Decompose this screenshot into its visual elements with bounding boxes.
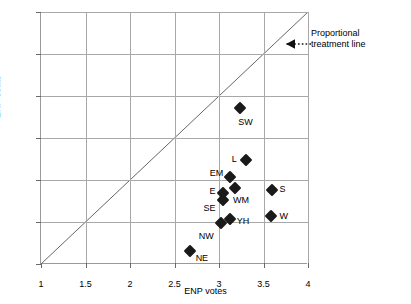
x-axis-tick: [264, 263, 265, 268]
data-point-wm[interactable]: [229, 181, 242, 194]
annotation-proportional-line: Proportional treatment line: [311, 28, 410, 50]
data-point-s[interactable]: [265, 184, 278, 197]
scatter-chart: 1.01.52.02.53.03.54.011.522.533.54SWLEME…: [0, 0, 411, 304]
data-point-w[interactable]: [264, 210, 277, 223]
data-point-label-yh: YH: [237, 217, 250, 226]
data-point-l[interactable]: [239, 153, 252, 166]
data-point-label-se: SE: [203, 204, 215, 213]
x-axis-tick: [86, 263, 87, 268]
x-axis-tick: [219, 263, 220, 268]
plot-area: 1.01.52.02.53.03.54.011.522.533.54SWLEME…: [40, 12, 307, 264]
data-point-sw[interactable]: [234, 101, 247, 114]
data-point-label-ne: NE: [196, 254, 209, 263]
data-point-label-e: E: [209, 187, 215, 196]
gridline-vertical: [264, 12, 265, 264]
y-axis-title: ENP seats: [0, 76, 2, 118]
y-axis-tick: [36, 222, 41, 223]
x-axis-title: ENP votes: [0, 286, 411, 296]
x-axis-tick: [308, 263, 309, 268]
data-point-label-nw: NW: [199, 232, 214, 241]
x-axis-tick: [175, 263, 176, 268]
y-axis-tick: [36, 12, 41, 13]
gridline-vertical: [130, 12, 131, 264]
annotation-arrow-icon: [276, 38, 312, 50]
x-axis-tick: [41, 263, 42, 268]
annotation-line-1: Proportional: [311, 28, 410, 39]
y-axis-tick: [36, 138, 41, 139]
data-point-label-wm: WM: [233, 196, 249, 205]
annotation-line-2: treatment line: [311, 39, 410, 50]
data-point-label-s: S: [280, 185, 286, 194]
data-point-ne[interactable]: [183, 245, 196, 258]
data-point-label-l: L: [232, 155, 237, 164]
x-axis-tick: [130, 263, 131, 268]
data-point-label-w: W: [280, 212, 289, 221]
data-point-label-em: EM: [210, 169, 224, 178]
y-axis-tick: [36, 54, 41, 55]
y-axis-tick: [36, 96, 41, 97]
y-axis-tick: [36, 180, 41, 181]
gridline-vertical: [175, 12, 176, 264]
data-point-label-sw: SW: [238, 118, 253, 127]
gridline-vertical: [86, 12, 87, 264]
